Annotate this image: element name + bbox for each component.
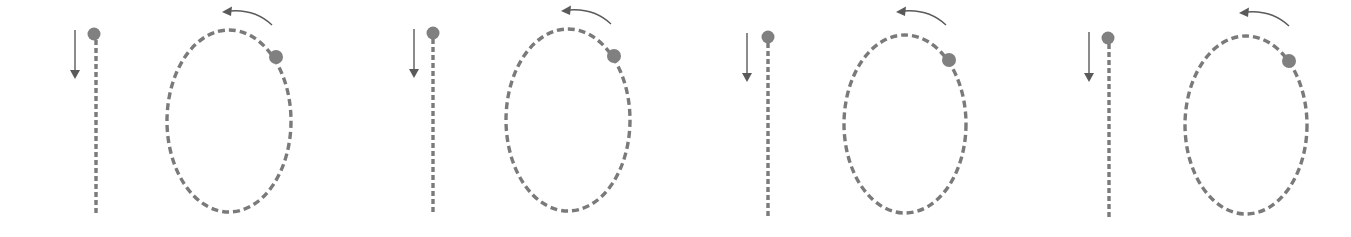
counterclockwise-arrow-icon bbox=[222, 7, 272, 26]
digit-zero-guide bbox=[167, 7, 291, 213]
digit-10-tracing-svg bbox=[0, 0, 300, 237]
tracing-worksheet: 10 bbox=[0, 0, 1351, 237]
start-dot-icon bbox=[762, 31, 775, 44]
counterclockwise-arrow-icon bbox=[561, 6, 611, 25]
down-arrow-icon bbox=[742, 33, 752, 82]
digit-one-guide bbox=[1084, 32, 1115, 218]
digit-10-tracing-svg bbox=[674, 3, 974, 237]
start-dot-icon bbox=[607, 49, 621, 63]
digit-10-tracing-svg bbox=[1014, 4, 1314, 237]
tracing-figure-4: 10 bbox=[1014, 4, 1314, 237]
digit-10-tracing-svg bbox=[339, 0, 639, 236]
start-dot-icon bbox=[88, 28, 101, 41]
digit-one-guide bbox=[409, 27, 440, 213]
down-arrow-icon bbox=[1084, 32, 1094, 82]
digit-zero-guide bbox=[1185, 8, 1307, 215]
counterclockwise-arrow-icon bbox=[896, 7, 946, 26]
start-dot-icon bbox=[1282, 54, 1296, 68]
start-dot-icon bbox=[942, 53, 956, 67]
start-dot-icon bbox=[269, 50, 283, 64]
digit-zero-guide bbox=[506, 6, 630, 212]
counterclockwise-arrow-icon bbox=[1239, 8, 1289, 27]
digit-zero-guide bbox=[844, 7, 966, 214]
start-dot-icon bbox=[1102, 32, 1115, 45]
digit-one-guide bbox=[742, 31, 775, 217]
tracing-figure-3: 10 bbox=[674, 3, 974, 237]
tracing-figure-2: 10 bbox=[339, 0, 639, 236]
tracing-figure-1: 10 bbox=[0, 0, 300, 237]
start-dot-icon bbox=[427, 27, 440, 40]
digit-one-guide bbox=[70, 28, 101, 214]
down-arrow-icon bbox=[409, 29, 419, 78]
down-arrow-icon bbox=[70, 30, 80, 79]
